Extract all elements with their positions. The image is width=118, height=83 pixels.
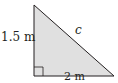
horizontal-leg-label: 2 m: [64, 71, 85, 82]
right-triangle: [34, 5, 114, 76]
vertical-leg-label: 1.5 m: [1, 31, 35, 43]
hypotenuse-label: c: [75, 24, 82, 36]
